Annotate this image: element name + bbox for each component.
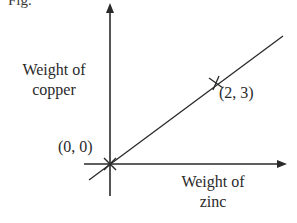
y-axis-label-line2: copper bbox=[4, 80, 104, 100]
x-axis-arrow-icon bbox=[277, 160, 287, 168]
x-axis-label-line2: zinc bbox=[158, 192, 268, 212]
y-axis-arrow-icon bbox=[106, 3, 114, 13]
origin-label: (0, 0) bbox=[58, 138, 93, 156]
y-axis-label-line1: Weight of bbox=[4, 60, 104, 80]
point-label: (2, 3) bbox=[219, 84, 254, 102]
y-axis-label: Weight of copper bbox=[4, 60, 104, 100]
x-axis-label-line1: Weight of bbox=[158, 172, 268, 192]
proportion-line bbox=[89, 36, 283, 180]
x-axis-label: Weight of zinc bbox=[158, 172, 268, 212]
